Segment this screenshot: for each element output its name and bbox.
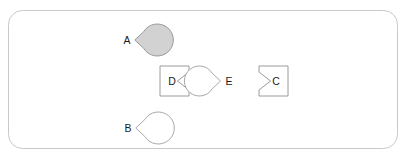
shape-puzzle-stage: ABDEC	[0, 0, 405, 158]
shape-c-label: C	[272, 75, 280, 87]
shape-d-label: D	[168, 75, 176, 87]
shape-b-label: B	[124, 122, 131, 134]
shape-e-label: E	[225, 75, 232, 87]
shape-a-label: A	[123, 34, 130, 46]
shape-canvas[interactable]: ABDEC	[0, 0, 405, 158]
